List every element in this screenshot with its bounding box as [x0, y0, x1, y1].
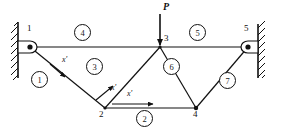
node-label-4: 4: [193, 110, 198, 119]
node-label-3: 3: [164, 34, 169, 43]
node-label-5: 5: [244, 24, 249, 33]
member-circle-1: 1: [31, 71, 48, 88]
member-label-3: 3: [92, 62, 96, 72]
member-circle-6: 6: [163, 58, 180, 75]
local-axis-label-member-1: x': [62, 56, 67, 64]
member-1-axis-arrow: [50, 64, 65, 77]
truss-joints: [103, 45, 198, 110]
member-label-2: 2: [142, 114, 146, 124]
load-label-P: P: [163, 2, 169, 12]
member-circle-2: 2: [136, 110, 153, 127]
member-6-line: [160, 47, 196, 108]
member-circle-3: 3: [86, 58, 103, 75]
local-axis-label-member-2: x': [127, 90, 132, 98]
member-3-line: [105, 47, 160, 108]
member-label-4: 4: [80, 28, 84, 38]
member-label-5: 5: [195, 28, 199, 38]
pin-support-node-1: [18, 41, 37, 53]
right-wall-hatching: [258, 21, 265, 78]
node-label-2: 2: [99, 110, 104, 119]
pin-support-node-5: [241, 41, 258, 53]
member-label-6: 6: [169, 62, 173, 72]
joint-3: [158, 45, 161, 48]
node-label-1: 1: [27, 24, 32, 33]
local-axis-label-member-3: x': [111, 84, 116, 92]
member-label-1: 1: [37, 75, 41, 85]
truss-diagram: P 1 2 3 4 5 1 2 3 4 5 6 7 x' x' x': [0, 0, 282, 137]
member-circle-5: 5: [189, 24, 206, 41]
member-circle-4: 4: [74, 24, 91, 41]
joint-2: [103, 106, 106, 109]
member-circle-7: 7: [219, 72, 236, 89]
left-wall-hatching: [11, 22, 18, 80]
member-label-7: 7: [225, 76, 229, 86]
